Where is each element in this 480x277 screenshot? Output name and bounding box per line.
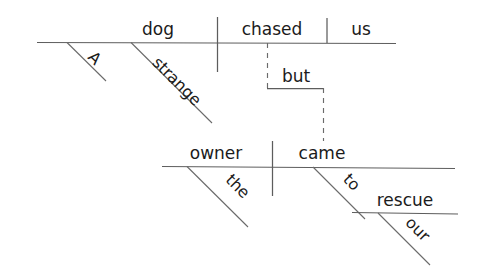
clause-2-baseline — [162, 167, 455, 169]
word-us: us — [351, 19, 371, 39]
preposition-object-line — [352, 213, 458, 215]
word-dog: dog — [142, 19, 174, 39]
word-a: A — [84, 48, 105, 69]
word-chased: chased — [242, 19, 303, 39]
word-but: but — [282, 66, 311, 86]
word-rescue: rescue — [377, 190, 434, 210]
clause-1-baseline — [37, 43, 396, 44]
word-strange: strange — [149, 53, 206, 110]
conjunction-connector-group: but — [267, 43, 324, 141]
clause-2-group: owner came the to rescue our — [162, 141, 458, 265]
sentence-diagram: dog chased us A strange but — [0, 0, 480, 277]
word-the: the — [222, 170, 254, 202]
word-to: to — [339, 170, 364, 195]
diagram-canvas: dog chased us A strange but — [0, 0, 480, 277]
word-came: came — [299, 143, 346, 163]
word-our: our — [402, 213, 434, 245]
clause-1-group: dog chased us A strange — [37, 17, 396, 123]
word-owner: owner — [190, 143, 243, 163]
